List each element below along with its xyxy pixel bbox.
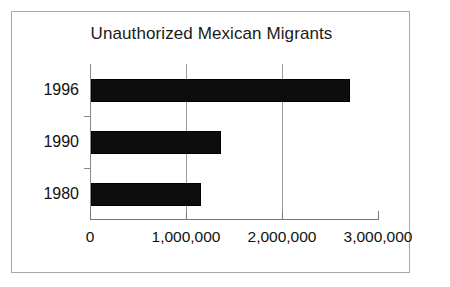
bar [91,183,201,206]
category-axis-tick [84,168,90,169]
category-axis-label: 1990 [17,133,79,151]
value-axis-tick-label: 2,000,000 [248,228,317,246]
value-axis-tick-label: 3,000,000 [344,228,413,246]
value-axis-tick [378,211,379,220]
value-axis-tick [186,211,187,220]
value-axis-tick [90,211,91,220]
category-axis-tick [84,116,90,117]
category-axis-label: 1980 [17,185,79,203]
plot-area: 01,000,0002,000,0003,000,000 19961990198… [90,64,378,220]
category-axis-label: 1996 [17,81,79,99]
chart-page: Unauthorized Mexican Migrants 01,000,000… [0,0,450,287]
value-axis-tick-label: 0 [86,228,95,246]
value-axis-tick [282,211,283,220]
chart-title: Unauthorized Mexican Migrants [12,24,411,44]
bar [91,79,350,102]
chart-frame: Unauthorized Mexican Migrants 01,000,000… [11,11,410,273]
value-axis-tick-label: 1,000,000 [152,228,221,246]
bar [91,131,221,154]
value-axis-line [90,219,378,220]
